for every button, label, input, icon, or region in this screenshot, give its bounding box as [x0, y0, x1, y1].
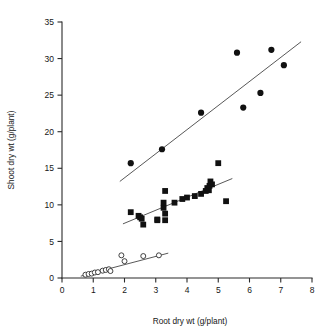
x-tick-label: 2: [122, 285, 127, 295]
data-point-upper-series: [268, 47, 274, 53]
data-point-lower-series: [95, 270, 100, 275]
y-tick-label: 30: [45, 54, 55, 64]
data-point-middle-series: [192, 193, 198, 199]
trend-line-upper-series: [120, 42, 301, 182]
y-axis-title: Shoot dry wt (g/plant): [6, 110, 16, 189]
data-point-upper-series: [198, 110, 204, 116]
data-point-upper-series: [234, 50, 240, 56]
data-point-middle-series: [223, 198, 229, 204]
x-tick-label: 3: [153, 285, 158, 295]
data-point-upper-series: [257, 90, 263, 96]
data-point-lower-series: [156, 253, 161, 258]
axes-group: [62, 22, 312, 278]
y-tick-label: 5: [49, 237, 54, 247]
x-axis-title: Root dry wt (g/plant): [153, 316, 228, 326]
x-tick-label: 0: [60, 285, 65, 295]
data-points-group: [83, 47, 287, 278]
x-tick-label: 8: [310, 285, 315, 295]
data-point-upper-series: [128, 160, 134, 166]
trend-lines-group: [81, 42, 301, 276]
data-point-middle-series: [184, 195, 190, 201]
y-tick-label: 15: [45, 163, 55, 173]
data-point-middle-series: [215, 160, 221, 166]
data-point-middle-series: [162, 211, 168, 217]
x-tick-label: 7: [278, 285, 283, 295]
data-point-lower-series: [108, 269, 113, 274]
data-point-middle-series: [172, 200, 178, 206]
y-tick-label: 25: [45, 90, 55, 100]
plot-canvas: 05101520253035012345678 Root dry wt (g/p…: [0, 0, 333, 335]
data-point-middle-series: [128, 209, 134, 215]
scatter-plot-figure: 05101520253035012345678 Root dry wt (g/p…: [0, 0, 333, 335]
y-tick-label: 35: [45, 17, 55, 27]
y-tick-label: 10: [45, 200, 55, 210]
data-point-middle-series: [161, 200, 167, 206]
y-tick-label: 0: [49, 273, 54, 283]
data-point-middle-series: [154, 217, 160, 223]
y-tick-label: 20: [45, 127, 55, 137]
data-point-upper-series: [281, 62, 287, 68]
data-point-lower-series: [122, 259, 127, 264]
data-point-middle-series: [139, 216, 145, 222]
data-point-upper-series: [240, 104, 246, 110]
data-point-lower-series: [119, 253, 124, 258]
data-point-upper-series: [159, 146, 165, 152]
data-point-lower-series: [141, 254, 146, 259]
data-point-middle-series: [140, 222, 146, 228]
x-tick-label: 5: [216, 285, 221, 295]
x-tick-label: 4: [185, 285, 190, 295]
data-point-middle-series: [162, 217, 168, 223]
x-tick-label: 6: [247, 285, 252, 295]
tick-marks-group: [58, 22, 313, 283]
tick-labels-group: 05101520253035012345678: [45, 17, 315, 295]
data-point-middle-series: [209, 181, 215, 187]
data-point-middle-series: [162, 188, 168, 194]
data-point-middle-series: [161, 205, 167, 211]
x-tick-label: 1: [91, 285, 96, 295]
